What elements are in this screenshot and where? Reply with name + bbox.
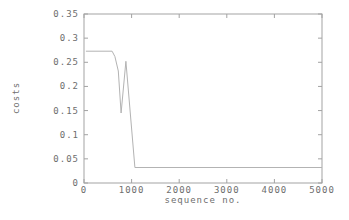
cost-curve-figure: 01000200030004000500000.050.10.150.20.25… [0,0,349,220]
series-line-costs [86,51,322,167]
plot-area: 01000200030004000500000.050.10.150.20.25… [0,0,349,220]
x-axis-label: sequence no. [84,195,322,205]
tick-label: 5000 [309,185,335,195]
tick-label: 0.05 [53,154,79,164]
tick-label: 0 [73,178,79,188]
y-axis-label: costs [11,82,21,114]
tick-label: 4000 [262,185,288,195]
tick-label: 0.35 [53,9,79,19]
tick-label: 0.15 [53,106,79,116]
tick-label: 2000 [166,185,192,195]
tick-label: 1000 [119,185,145,195]
tick-label: 0.25 [53,57,79,67]
tick-label: 0.3 [60,33,79,43]
tick-label: 0.2 [60,81,79,91]
tick-label: 3000 [214,185,240,195]
tick-label: 0 [81,185,87,195]
tick-label: 0.1 [60,130,79,140]
